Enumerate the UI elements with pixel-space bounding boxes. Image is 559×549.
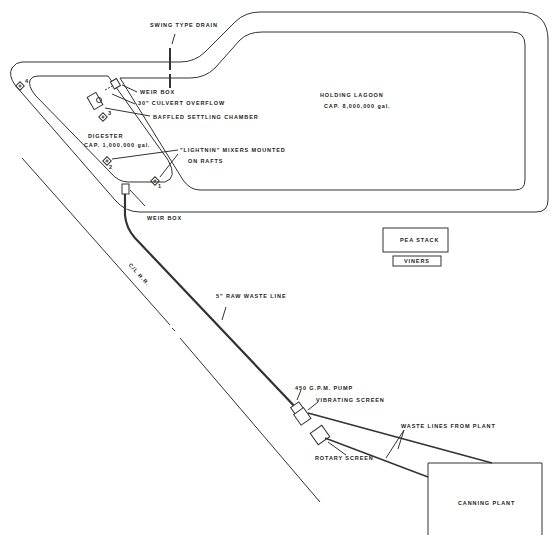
rotary-screen-label: ROTARY SCREEN (315, 455, 374, 461)
raw-waste-line (125, 194, 298, 410)
site-plan-drawing (0, 0, 559, 549)
mixer-number-1: 1 (158, 183, 162, 189)
holding-lagoon-wall (120, 32, 525, 190)
mixer-number-4: 4 (25, 78, 29, 84)
mixers-label-2: ON RAFTS (188, 158, 223, 164)
lagoon-outer-wall (11, 12, 548, 212)
baffled-chamber-label: BAFFLED SETTLING CHAMBER (153, 114, 259, 120)
swing-drain-label: SWING TYPE DRAIN (150, 22, 218, 28)
vibrating-screen-label: VIBRATING SCREEN (316, 397, 385, 403)
mixer-number-3: 3 (108, 110, 112, 116)
viners-label: VINERS (404, 258, 430, 264)
pea-stack-label: PEA STACK (400, 237, 439, 243)
canning-plant-label: CANNING PLANT (458, 500, 515, 506)
weir-box-bottom-label: WEIR BOX (147, 215, 182, 221)
holding-lagoon-capacity-label: CAP. 8,000,000 gal. (324, 103, 391, 109)
waste-lines-label: WASTE LINES FROM PLANT (401, 423, 496, 429)
weir-box-top-label: WEIR BOX (140, 89, 175, 95)
digester-label: DIGESTER (88, 133, 123, 139)
culvert-label: 30" CULVERT OVERFLOW (138, 100, 225, 106)
canning-plant-outline (428, 463, 542, 535)
raw-waste-line-label: 5" RAW WASTE LINE (216, 293, 286, 299)
pump-label: 450 G.P.M. PUMP (295, 385, 353, 391)
holding-lagoon-label: HOLDING LAGOON (320, 92, 384, 98)
digester-capacity-label: CAP. 1,000,000 gal. (84, 142, 151, 148)
mixers-label-1: "LIGHTNIN" MIXERS MOUNTED (180, 147, 286, 153)
railroad-centerline (22, 158, 170, 325)
mixer-number-2: 2 (109, 164, 113, 170)
